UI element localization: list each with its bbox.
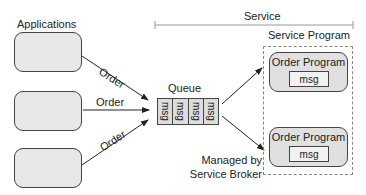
application-box-3 xyxy=(14,148,82,188)
queue-message: msg xyxy=(189,99,204,124)
queue-message: msg xyxy=(204,99,218,124)
applications-label: Applications xyxy=(17,19,76,30)
queue: msg msg msg msg xyxy=(157,98,219,125)
service-program-label: Service Program xyxy=(268,30,350,41)
order-program-title: Order Program xyxy=(270,56,347,68)
queue-label: Queue xyxy=(168,83,201,94)
order-program-2: Order Program msg xyxy=(269,127,348,167)
queue-message: msg xyxy=(173,99,188,124)
order-label-2: Order xyxy=(96,97,124,108)
order-program-1: Order Program msg xyxy=(269,52,348,92)
application-box-2 xyxy=(14,91,82,131)
application-box-1 xyxy=(14,32,82,72)
broker-note-line1: Managed by xyxy=(200,155,262,166)
order-program-title: Order Program xyxy=(270,131,347,143)
order-program-msg: msg xyxy=(289,71,329,87)
queue-message: msg xyxy=(158,99,173,124)
order-program-msg: msg xyxy=(289,146,329,162)
service-label: Service xyxy=(244,11,281,22)
broker-note-line2: Service Broker xyxy=(186,169,262,180)
